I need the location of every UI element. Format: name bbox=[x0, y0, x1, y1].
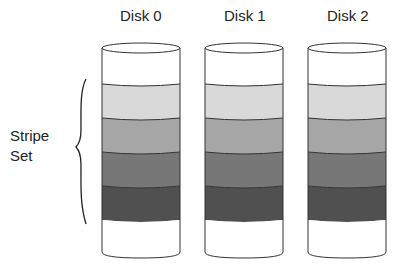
disk-0 bbox=[102, 43, 180, 258]
disk-2 bbox=[308, 43, 386, 258]
stripe-set-brace bbox=[76, 79, 86, 224]
disk-1 bbox=[205, 43, 283, 258]
raid-stripe-diagram bbox=[0, 0, 394, 265]
